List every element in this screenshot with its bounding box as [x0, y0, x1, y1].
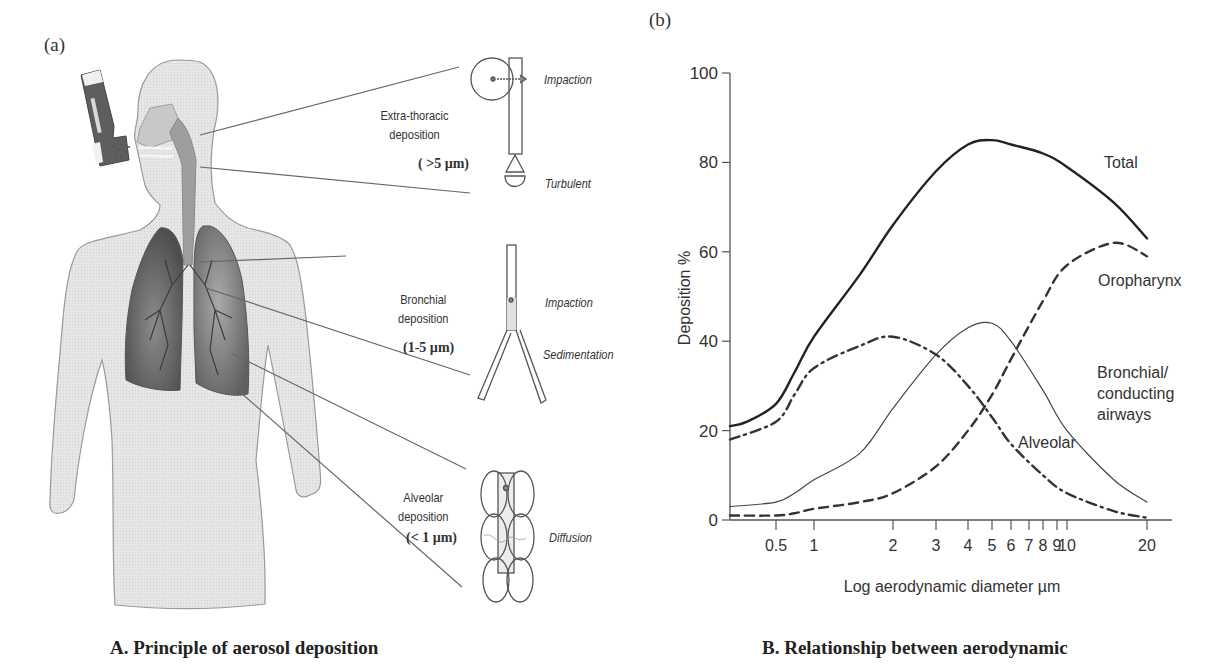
x-tick-label: 0.5: [765, 537, 787, 554]
x-tick-label: 1: [810, 537, 819, 554]
deposition-chart: 0204060801000.51234567891020 TotalOropha…: [0, 0, 1222, 620]
y-tick-label: 80: [699, 153, 718, 172]
y-tick-label: 40: [699, 332, 718, 351]
y-axis-label: Deposition %: [676, 251, 693, 345]
x-tick-label: 8: [1039, 537, 1048, 554]
x-tick-label: 2: [889, 537, 898, 554]
x-tick-label: 7: [1025, 537, 1034, 554]
series-line-bronchial-conducting-airways: [730, 322, 1147, 506]
y-tick-label: 0: [709, 511, 718, 530]
x-tick-label: 4: [964, 537, 973, 554]
curve-label-line: Total: [1104, 154, 1138, 171]
curve-label-total: Total: [1104, 154, 1138, 171]
curve-label-line: Oropharynx: [1098, 272, 1182, 289]
y-tick-label: 100: [690, 64, 718, 83]
series-line-oropharynx: [730, 243, 1147, 516]
curve-label-line: Bronchial/: [1097, 364, 1169, 381]
y-tick-label: 20: [699, 422, 718, 441]
x-tick-label: 6: [1007, 537, 1016, 554]
curve-label-line: airways: [1097, 406, 1151, 423]
series-line-total: [730, 140, 1147, 426]
y-tick-label: 60: [699, 243, 718, 262]
curve-label-line: Alveolar: [1018, 434, 1076, 451]
x-tick-label: 5: [988, 537, 997, 554]
caption-a: A. Principle of aerosol deposition: [110, 637, 378, 659]
x-axis-label: Log aerodynamic diameter µm: [844, 578, 1060, 595]
curve-label-alveolar: Alveolar: [1018, 434, 1076, 451]
curve-label-oropharynx: Oropharynx: [1098, 272, 1182, 289]
x-tick-label: 10: [1058, 537, 1076, 554]
x-tick-label: 3: [932, 537, 941, 554]
series-line-alveolar: [730, 336, 1147, 517]
caption-b: B. Relationship between aerodynamic: [762, 637, 1068, 659]
curve-label-line: conducting: [1097, 385, 1174, 402]
curve-label-bronchial-conducting-airways: Bronchial/conductingairways: [1097, 364, 1174, 423]
x-tick-label: 20: [1138, 537, 1156, 554]
